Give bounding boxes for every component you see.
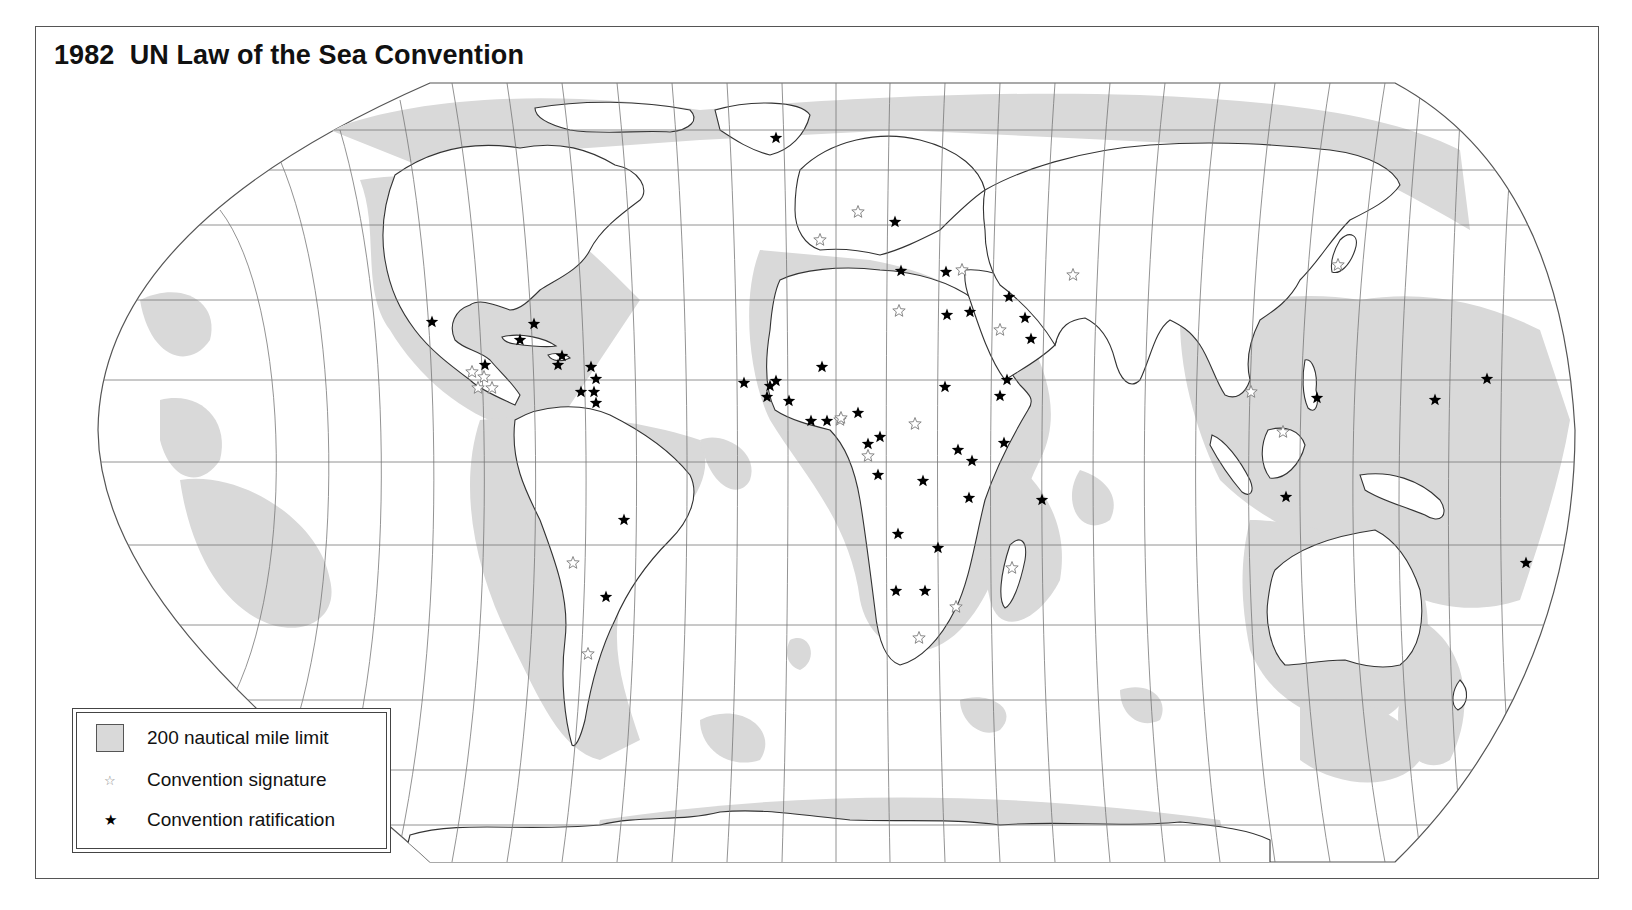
gray-square-icon — [96, 724, 124, 752]
legend-item-signature: ☆ Convention signature — [73, 765, 327, 795]
legend-label: Convention signature — [147, 769, 327, 791]
legend-label: Convention ratification — [147, 809, 335, 831]
open-star-icon: ☆ — [104, 773, 116, 788]
solid-star-icon: ★ — [104, 811, 117, 829]
legend-item-200nm: 200 nautical mile limit — [73, 723, 329, 753]
map-legend: 200 nautical mile limit ☆ Convention sig… — [72, 708, 391, 853]
legend-label: 200 nautical mile limit — [147, 727, 329, 749]
legend-item-ratification: ★ Convention ratification — [73, 805, 335, 835]
